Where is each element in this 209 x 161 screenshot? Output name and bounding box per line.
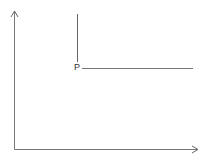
point-label-p: P [74, 63, 80, 72]
diagram-canvas [0, 0, 209, 161]
